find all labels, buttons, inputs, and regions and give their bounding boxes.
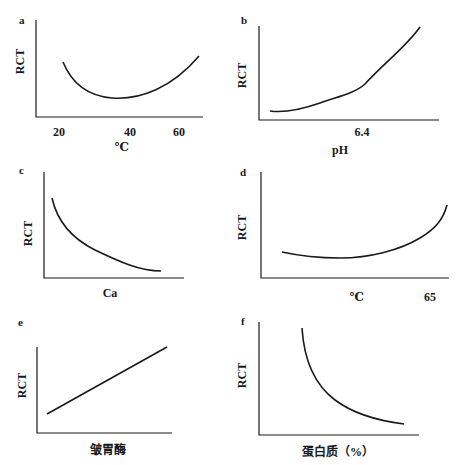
panel-d-ylabel: RCT (235, 215, 250, 240)
panel-a-axes (36, 20, 203, 117)
panel-c-curve (52, 198, 161, 271)
panel-f-letter: f (241, 315, 245, 327)
panel-c-ylabel: RCT (21, 221, 36, 246)
panel-c-letter: c (19, 164, 24, 176)
panel-f-axes (259, 322, 419, 435)
panel-b-ylabel: RCT (235, 63, 250, 88)
plots-canvas (0, 0, 468, 465)
panel-b-xlabel: pH (332, 143, 348, 158)
panel-e-axes (37, 347, 172, 433)
panel-b-curve (270, 27, 420, 112)
panel-d-tick-65: 65 (424, 290, 436, 305)
panel-b-axes (259, 26, 439, 120)
panel-e-ylabel: RCT (15, 373, 30, 398)
panel-e-line (47, 347, 167, 414)
panel-d-letter: d (240, 166, 246, 178)
panel-b-tick-6-4: 6.4 (355, 125, 370, 140)
panel-f-ylabel: RCT (235, 363, 250, 388)
panel-d-axes (261, 172, 449, 278)
panel-c-xlabel: Ca (103, 286, 118, 301)
panel-a-ylabel: RCT (13, 49, 28, 74)
panel-a-tick-20: 20 (53, 125, 65, 140)
panel-a-tick-60: 60 (173, 125, 185, 140)
panel-a-xlabel: ℃ (115, 140, 129, 155)
figure: a RCT 20 40 60 ℃ b RCT 6.4 pH c RCT Ca d… (0, 0, 468, 465)
panel-d-xlabel: ℃ (350, 290, 364, 305)
panel-a-tick-40: 40 (124, 125, 136, 140)
panel-f-curve (302, 328, 404, 424)
panel-a-letter: a (19, 14, 25, 26)
panel-d-curve (282, 205, 447, 258)
panel-a-curve (63, 56, 199, 98)
panel-e-xlabel: 皱胃酶 (90, 440, 126, 458)
panel-e-letter: e (18, 316, 23, 328)
panel-b-letter: b (241, 14, 247, 26)
panel-f-xlabel: 蛋白质（%） (302, 442, 374, 460)
